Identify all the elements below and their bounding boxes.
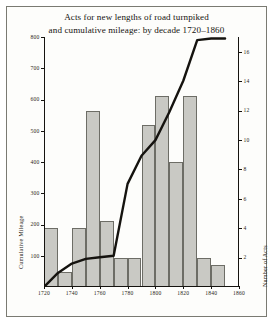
- y-right-tick-label-2: 2: [244, 254, 247, 260]
- bar-1770: [114, 258, 128, 287]
- y-right-tick-label-10: 10: [244, 137, 250, 143]
- bar-1730: [58, 272, 72, 287]
- y-left-tick-800: [41, 37, 45, 38]
- y-left-tick-label-700: 700: [31, 65, 40, 71]
- y-left-tick-600: [41, 100, 45, 101]
- y-right-tick-12: [238, 111, 242, 112]
- chart-title-line-2: and cumulative mileage: by decade 1720–1…: [20, 24, 253, 37]
- x-tick-label-1860: 1860: [224, 290, 254, 296]
- y-right-tick-label-14: 14: [244, 78, 250, 84]
- bar-1830: [197, 258, 211, 287]
- bar-1740: [72, 228, 86, 287]
- y-axis-right-title: Number of Acts: [262, 245, 268, 287]
- y-left-tick-400: [41, 162, 45, 163]
- y-left-tick-label-400: 400: [31, 159, 40, 165]
- y-right-tick-10: [238, 140, 242, 141]
- y-right-tick-16: [238, 52, 242, 53]
- y-axis-left-title: Cumulative Mileage: [18, 215, 24, 269]
- bar-1800: [155, 96, 169, 287]
- bar-1790: [142, 125, 156, 287]
- x-tick-label-1740: 1740: [57, 290, 87, 296]
- y-right-tick-label-4: 4: [244, 225, 247, 231]
- x-tick-label-1760: 1760: [85, 290, 115, 296]
- y-left-tick-200: [41, 225, 45, 226]
- x-tick-label-1780: 1780: [113, 290, 143, 296]
- y-left-tick-label-800: 800: [31, 34, 40, 40]
- bar-1820: [183, 96, 197, 287]
- y-left-tick-300: [41, 193, 45, 194]
- bar-1750: [86, 111, 100, 287]
- y-right-tick-label-6: 6: [244, 196, 247, 202]
- bar-1720: [44, 228, 58, 287]
- y-right-tick-label-12: 12: [244, 107, 250, 113]
- y-left-tick-label-100: 100: [31, 253, 40, 259]
- chart-title: Acts for new lengths of road turnpiked a…: [20, 11, 253, 37]
- y-left-tick-label-600: 600: [31, 96, 40, 102]
- x-tick-label-1820: 1820: [168, 290, 198, 296]
- bar-1810: [169, 162, 183, 287]
- y-left-tick-100: [41, 256, 45, 257]
- bar-1840: [211, 265, 225, 287]
- x-tick-label-1840: 1840: [196, 290, 226, 296]
- plot-area: 100200300400500600700800 246810121416 17…: [44, 37, 224, 287]
- y-right-tick-label-16: 16: [244, 49, 250, 55]
- y-axis-right: [238, 37, 239, 287]
- x-tick-label-1800: 1800: [140, 290, 170, 296]
- y-right-tick-label-8: 8: [244, 166, 247, 172]
- x-axis: [44, 286, 239, 287]
- bar-1760: [100, 221, 114, 287]
- y-right-tick-4: [238, 228, 242, 229]
- y-right-tick-6: [238, 199, 242, 200]
- y-left-tick-700: [41, 68, 45, 69]
- y-left-tick-label-500: 500: [31, 128, 40, 134]
- y-left-tick-label-300: 300: [31, 190, 40, 196]
- x-tick-label-1720: 1720: [29, 290, 59, 296]
- chart-title-line-1: Acts for new lengths of road turnpiked: [64, 12, 209, 22]
- y-left-tick-500: [41, 131, 45, 132]
- y-right-tick-8: [238, 169, 242, 170]
- chart-figure: Acts for new lengths of road turnpiked a…: [0, 0, 273, 323]
- y-right-tick-2: [238, 258, 242, 259]
- y-right-tick-14: [238, 81, 242, 82]
- bar-1780: [128, 258, 142, 287]
- y-left-tick-label-200: 200: [31, 221, 40, 227]
